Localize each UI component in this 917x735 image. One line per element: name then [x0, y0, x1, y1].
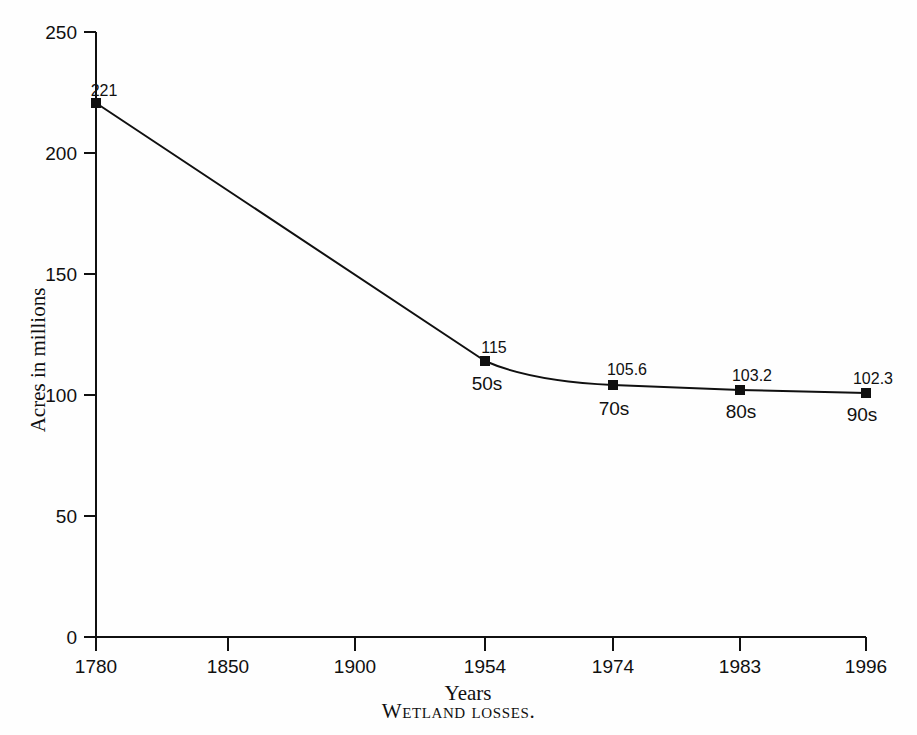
- data-point-value-labels: 221 115 105.6 103.2 102.3: [91, 82, 893, 387]
- data-label-1954: 115: [481, 339, 507, 356]
- x-tick-label-1900: 1900: [334, 656, 376, 677]
- line-chart-plot: 0 50 100 150 200 250 1780 1850 1900 1954…: [0, 0, 917, 735]
- x-tick-label-1850: 1850: [207, 656, 249, 677]
- data-label-1983: 103.2: [732, 367, 772, 384]
- y-axis-title: Acres in millions: [26, 288, 50, 433]
- x-axis-ticks: 1780 1850 1900 1954 1974 1983 1996: [75, 637, 887, 677]
- era-label-90s: 90s: [847, 404, 878, 425]
- x-tick-label-1983: 1983: [719, 656, 761, 677]
- wetland-losses-figure: 0 50 100 150 200 250 1780 1850 1900 1954…: [0, 0, 917, 735]
- chart-axes: [96, 32, 866, 637]
- y-tick-label-200: 200: [45, 143, 77, 164]
- y-tick-label-150: 150: [45, 264, 77, 285]
- x-tick-label-1954: 1954: [464, 656, 507, 677]
- data-point-marker: [735, 385, 745, 395]
- data-label-1996: 102.3: [853, 370, 893, 387]
- era-label-70s: 70s: [599, 398, 630, 419]
- y-axis-ticks: 0 50 100 150 200 250: [45, 22, 96, 648]
- era-label-50s: 50s: [472, 373, 503, 394]
- data-label-1974: 105.6: [607, 361, 647, 378]
- data-point-marker: [91, 98, 101, 108]
- data-point-marker: [480, 356, 490, 366]
- data-point-era-labels: 50s 70s 80s 90s: [472, 373, 878, 425]
- x-tick-label-1974: 1974: [592, 656, 635, 677]
- y-tick-label-250: 250: [45, 22, 77, 43]
- data-point-marker: [608, 380, 618, 390]
- data-point-marker: [861, 388, 871, 398]
- y-tick-label-0: 0: [66, 627, 77, 648]
- y-tick-label-100: 100: [45, 385, 77, 406]
- era-label-80s: 80s: [726, 401, 757, 422]
- y-tick-label-50: 50: [56, 506, 77, 527]
- data-label-1780: 221: [91, 82, 118, 99]
- figure-caption: Wetland losses.: [0, 699, 917, 724]
- x-tick-label-1996: 1996: [845, 656, 887, 677]
- x-tick-label-1780: 1780: [75, 656, 117, 677]
